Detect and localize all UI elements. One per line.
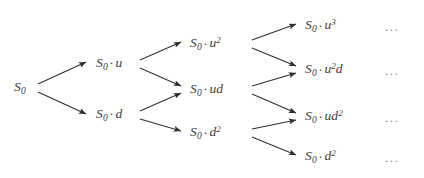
tree-edge-up bbox=[252, 120, 296, 129]
tree-edge-down bbox=[252, 48, 296, 66]
binomial-tree-diagram: S0S0·uS0·dS0·u2S0·udS0·d2S0·u3S0·u2dS0·u… bbox=[0, 0, 424, 178]
tree-edge-down bbox=[140, 68, 181, 86]
tree-edges bbox=[38, 24, 296, 155]
tree-edge-down bbox=[38, 92, 86, 114]
tree-node-n1d: S0·d bbox=[96, 107, 122, 123]
tree-node-n3uud: S0·u2d bbox=[305, 62, 343, 79]
tree-node-n3ddd: S0·d2 bbox=[305, 149, 336, 166]
tree-node-n3uuu: S0·u3 bbox=[305, 18, 336, 35]
tree-edge-down bbox=[252, 137, 296, 155]
continuation-ellipsis-e2: ... bbox=[385, 111, 400, 124]
continuation-ellipsis-e0: ... bbox=[385, 20, 400, 33]
tree-node-n1u: S0·u bbox=[96, 56, 122, 72]
tree-edge-down bbox=[140, 119, 181, 131]
tree-edge-up bbox=[140, 93, 181, 111]
tree-node-n2ud: S0·ud bbox=[190, 82, 223, 98]
tree-node-n2uu: S0·u2 bbox=[190, 36, 221, 53]
tree-edge-up bbox=[38, 62, 86, 84]
tree-edge-up bbox=[252, 24, 296, 40]
tree-node-n3udd: S0·ud2 bbox=[305, 109, 343, 126]
continuation-ellipsis-e3: ... bbox=[385, 151, 400, 164]
tree-edge-down bbox=[252, 94, 296, 113]
continuation-ellipsis-e1: ... bbox=[385, 64, 400, 77]
tree-edge-up bbox=[252, 73, 296, 86]
tree-node-n2dd: S0·d2 bbox=[190, 125, 221, 142]
tree-edge-up bbox=[140, 42, 181, 60]
tree-node-n0: S0 bbox=[14, 80, 26, 96]
